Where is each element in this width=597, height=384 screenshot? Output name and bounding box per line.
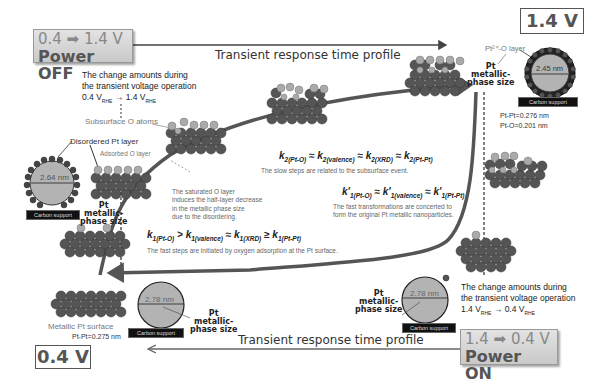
label-pt2o-layer: Pt²⁺-O layer <box>485 44 525 53</box>
change-top-line2: the transient voltage operation <box>82 81 196 92</box>
slab-pt2o <box>405 56 465 96</box>
slab-center-top <box>267 83 328 124</box>
change-amounts-bottom: The change amounts during the transient … <box>461 282 575 316</box>
change-bottom-line1: The change amounts during <box>461 282 575 293</box>
power-on-box: 1.4 ➡ 0.4 V Power ON <box>460 329 558 365</box>
pt-phase-size-label-left: Ptmetallic-phase size <box>80 202 127 226</box>
profile-label-top: Transient response time profile <box>215 48 401 62</box>
label-disordered-pt: Disordered Pt layer <box>70 137 138 146</box>
k2-note: The slow steps are related to the subsur… <box>261 167 408 175</box>
pt-phase-size-label-top-right: Ptmetallic-phase size <box>467 63 514 87</box>
power-off-box: 0.4 ➡ 1.4 V Power OFF <box>33 29 133 63</box>
diameter-bottom-right: 2.78 nm <box>410 289 439 298</box>
k1-note: The fast steps are initiated by oxygen a… <box>147 247 338 255</box>
voltage-high-box: 1.4 V <box>520 8 584 34</box>
label-subsurface-o: Subsurface O atoms <box>85 117 158 126</box>
diameter-top-right: 2.45 nm <box>536 64 563 73</box>
slab-adsorbed-o <box>91 166 151 199</box>
slab-right-lower <box>456 231 516 272</box>
change-top-line3: 0.4 VRHE → 1.4 VRHE <box>82 92 196 104</box>
change-amounts-top: The change amounts during the transient … <box>82 70 196 104</box>
slab-left-lower <box>60 224 130 257</box>
equation-k1-prime: k'1(Pt-O) ≈ k'1(valence) ≈ k'1(Pt-Pt) <box>342 186 465 199</box>
equation-k1: k1(Pt-O) > k1(valence) ≈ k1(XRD) ≥ k1(Pt… <box>147 229 301 242</box>
bond-ptpt-bottom-left: Pt-Pt=0.275 nm <box>72 333 121 340</box>
diameter-left: 2.64 nm <box>40 173 69 182</box>
power-off-voltage: 0.4 ➡ 1.4 V <box>38 31 128 48</box>
carbon-support-top-right: Carbon support <box>518 97 578 107</box>
power-on-label: Power ON <box>465 348 553 383</box>
slab-subsurface-o <box>166 118 226 154</box>
carbon-support-left: Carbon support <box>26 210 80 220</box>
label-metallic-surface: Metallic Pt surface <box>48 322 113 331</box>
change-bottom-line3: 1.4 VRHE → 0.4 VRHE <box>461 304 575 316</box>
voltage-low-box: 0.4 V <box>35 345 91 369</box>
label-adsorbed-o: Adsorbed O layer <box>100 150 151 157</box>
power-on-voltage: 1.4 ➡ 0.4 V <box>465 331 553 348</box>
diameter-bottom-left: 2.78 nm <box>145 295 174 304</box>
pt-phase-size-label-bottom-right: Ptmetallic-phase size <box>355 290 402 314</box>
change-bottom-line2: the transient voltage operation <box>461 293 575 304</box>
carbon-support-bottom-left: Carbon support <box>128 328 184 338</box>
particle-left <box>24 156 80 208</box>
bond-pto-top-right: Pt-O=0.201 nm <box>500 122 548 129</box>
slab-metallic-surface <box>51 291 126 317</box>
bond-ptpt-top-right: Pt-Pt=0.276 nm <box>500 112 549 119</box>
equation-k2: k2(Pt-O) ≈ k2(valence) ≈ k2(XRD) ≈ k2(Pt… <box>279 150 433 163</box>
particle-bottom-right <box>402 275 449 323</box>
profile-label-bottom: Transient response time profile <box>238 333 424 347</box>
slab-right-middle <box>485 152 547 188</box>
carbon-support-bottom-right: Carbon support <box>402 323 456 333</box>
particle-bottom-left <box>138 282 190 328</box>
pt-phase-size-label-bottom-left: Ptmetallic-phase size <box>190 310 237 334</box>
particle-top-right <box>525 48 576 99</box>
saturated-o-note: The saturated O layer induces the half-l… <box>172 188 262 222</box>
change-top-line1: The change amounts during <box>82 70 196 81</box>
k1-prime-note: The fast transformations are concerted t… <box>333 203 454 220</box>
